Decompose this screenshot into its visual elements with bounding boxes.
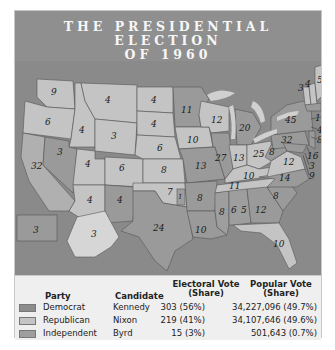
title-line-1: THE PRESIDENTIAL ELECTION [15, 20, 321, 48]
svg-text:3: 3 [111, 131, 117, 141]
svg-text:6: 6 [231, 205, 237, 215]
svg-text:4: 4 [116, 195, 123, 205]
svg-text:9: 9 [51, 87, 57, 97]
svg-text:32: 32 [31, 161, 43, 171]
title-bar: THE PRESIDENTIAL ELECTION OF 1960 [15, 11, 321, 61]
svg-text:27: 27 [214, 153, 227, 163]
svg-text:13: 13 [195, 161, 207, 171]
svg-text:11: 11 [229, 181, 240, 191]
svg-text:8: 8 [219, 207, 225, 217]
svg-text:1: 1 [178, 193, 182, 201]
svg-text:10: 10 [195, 225, 207, 235]
title-line-2: OF 1960 [15, 48, 321, 62]
svg-text:3: 3 [309, 161, 315, 171]
state-fl [233, 223, 297, 269]
svg-text:11: 11 [181, 105, 192, 115]
legend-table: Party Candidate Electoral Vote (Share) P… [15, 275, 321, 340]
legend-row-republican: Republican Nixon 219 (41%) 34,107,646 (4… [15, 315, 321, 327]
svg-text:3: 3 [57, 147, 63, 157]
svg-text:6: 6 [119, 163, 125, 173]
svg-text:8: 8 [273, 191, 279, 201]
svg-text:13: 13 [233, 153, 245, 163]
svg-text:5: 5 [317, 75, 321, 85]
state-nj [309, 131, 315, 149]
svg-text:10: 10 [273, 239, 285, 249]
svg-text:9: 9 [309, 171, 315, 181]
svg-text:4: 4 [104, 95, 111, 105]
legend-row-independent: Independent Byrd 15 (3%) 501,643 (0.7%) [15, 328, 321, 340]
svg-text:4: 4 [84, 159, 91, 169]
svg-text:8: 8 [269, 147, 275, 157]
republican-swatch [19, 317, 36, 325]
header-popular: Popular Vote (Share) [243, 280, 319, 298]
svg-text:32: 32 [281, 135, 293, 145]
election-map-figure: THE PRESIDENTIAL ELECTION OF 1960 [14, 10, 322, 338]
svg-text:16: 16 [307, 151, 319, 161]
svg-text:6: 6 [157, 143, 163, 153]
svg-text:20: 20 [238, 123, 251, 133]
democrat-swatch [19, 304, 36, 312]
us-map-svg: 9 6 32 4 3 4 3 4 4 6 4 4 4 6 8 7 1 24 11… [15, 61, 321, 275]
header-electoral: Electoral Vote (Share) [171, 280, 241, 298]
svg-text:4: 4 [304, 79, 311, 89]
svg-text:8: 8 [317, 135, 321, 145]
svg-text:3: 3 [298, 83, 304, 93]
us-map: 9 6 32 4 3 4 3 4 4 6 4 4 4 6 8 7 1 24 11… [15, 61, 321, 275]
svg-text:8: 8 [197, 193, 203, 203]
svg-text:12: 12 [255, 205, 267, 215]
svg-text:4: 4 [316, 125, 321, 135]
svg-text:3: 3 [33, 225, 39, 235]
svg-text:8: 8 [161, 165, 167, 175]
svg-text:45: 45 [284, 115, 297, 125]
svg-text:12: 12 [211, 115, 223, 125]
svg-text:4: 4 [78, 125, 85, 135]
svg-text:6: 6 [45, 117, 51, 127]
svg-text:10: 10 [187, 135, 199, 145]
svg-text:3: 3 [91, 229, 97, 239]
svg-text:7: 7 [167, 187, 173, 197]
header-candidate: Candidate [115, 292, 164, 301]
svg-text:4: 4 [150, 95, 157, 105]
header-party: Party [45, 292, 71, 301]
svg-text:10: 10 [243, 171, 255, 181]
svg-text:24: 24 [152, 223, 165, 233]
svg-text:14: 14 [279, 173, 291, 183]
svg-text:25: 25 [252, 149, 265, 159]
svg-text:12: 12 [283, 157, 295, 167]
independent-swatch [19, 330, 36, 338]
svg-text:4: 4 [86, 195, 93, 205]
legend-row-democrat: Democrat Kennedy 303 (56%) 34,227,096 (4… [15, 302, 321, 314]
svg-text:5: 5 [241, 205, 247, 215]
figure-title: THE PRESIDENTIAL ELECTION OF 1960 [15, 11, 321, 62]
svg-text:4: 4 [150, 119, 157, 129]
